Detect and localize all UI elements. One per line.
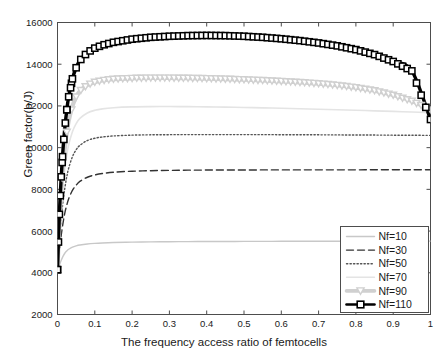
legend-label-Nf90: Nf=90 — [379, 285, 407, 297]
legend-label-Nf110: Nf=110 — [379, 298, 413, 310]
legend-square-marker — [357, 301, 364, 308]
x-tick-label: 0.6 — [275, 318, 288, 329]
legend: Nf=10Nf=30Nf=50Nf=70Nf=90Nf=110 — [341, 227, 429, 313]
square-marker — [409, 68, 415, 74]
square-marker — [73, 65, 79, 71]
y-tick-label: 16000 — [26, 17, 52, 28]
line-chart: 00.10.20.30.40.50.60.70.80.9120004000600… — [0, 0, 448, 361]
x-tick-label: 0.9 — [387, 318, 400, 329]
x-tick-label: 0.1 — [88, 318, 101, 329]
x-tick-label: 0.8 — [349, 318, 362, 329]
square-marker — [61, 136, 67, 142]
square-marker — [55, 239, 61, 245]
square-marker — [67, 85, 73, 91]
legend-label-Nf30: Nf=30 — [379, 244, 407, 256]
square-marker — [418, 92, 424, 98]
legend-label-Nf50: Nf=50 — [379, 257, 407, 269]
legend-label-Nf10: Nf=10 — [379, 230, 407, 242]
x-tick-label: 0.2 — [125, 318, 138, 329]
plot-area-wrapper: 00.10.20.30.40.50.60.70.80.9120004000600… — [0, 0, 448, 361]
square-marker — [58, 174, 64, 180]
square-marker — [54, 267, 60, 273]
square-marker — [57, 193, 63, 199]
y-tick-label: 2000 — [31, 309, 52, 320]
square-marker — [66, 94, 72, 100]
square-marker — [69, 76, 75, 82]
x-tick-label: 0.5 — [237, 318, 250, 329]
x-tick-label: 1 — [428, 318, 433, 329]
y-tick-label: 4000 — [31, 267, 52, 278]
figure-container: 00.10.20.30.40.50.60.70.80.9120004000600… — [0, 0, 448, 361]
y-tick-label: 8000 — [31, 184, 52, 195]
x-tick-label: 0 — [55, 318, 60, 329]
x-axis-label: The frequency access ratio of femtocells — [0, 336, 448, 348]
square-marker — [423, 104, 429, 110]
square-marker — [59, 154, 65, 160]
square-marker — [413, 80, 419, 86]
x-tick-label: 0.4 — [200, 318, 213, 329]
y-tick-label: 6000 — [31, 226, 52, 237]
y-axis-label: Green factor(b/J) — [22, 34, 34, 234]
square-marker — [62, 120, 68, 126]
legend-label-Nf70: Nf=70 — [379, 271, 407, 283]
square-marker — [427, 116, 433, 122]
x-tick-label: 0.3 — [163, 318, 176, 329]
square-marker — [64, 107, 70, 113]
x-tick-label: 0.7 — [312, 318, 325, 329]
